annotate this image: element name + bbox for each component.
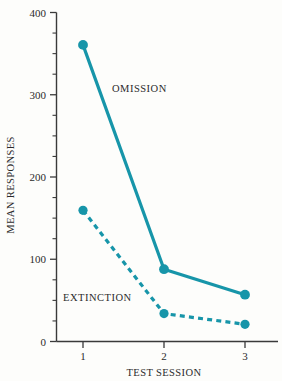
- x-tick-label-3: 3: [242, 350, 248, 362]
- y-axis-major-ticks: [50, 13, 57, 342]
- x-axis-title: TEST SESSION: [127, 367, 202, 378]
- x-tick-label-2: 2: [161, 350, 167, 362]
- y-tick-label-300: 300: [30, 89, 47, 101]
- line-chart: 400 300 200 100 0 1 2 3 TEST SESSION MEA…: [0, 0, 282, 381]
- y-tick-label-400: 400: [30, 7, 47, 19]
- y-axis-title: MEAN RESPONSES: [5, 136, 16, 234]
- x-axis-ticks: [83, 342, 245, 349]
- series-label-omission: OMISSION: [112, 83, 167, 94]
- series-label-extinction: EXTINCTION: [63, 292, 132, 303]
- y-tick-label-200: 200: [30, 171, 47, 183]
- x-tick-label-1: 1: [80, 350, 86, 362]
- y-tick-label-100: 100: [30, 253, 47, 265]
- series-markers-omission: [78, 40, 250, 300]
- y-tick-label-0: 0: [41, 336, 47, 348]
- chart-figure: 400 300 200 100 0 1 2 3 TEST SESSION MEA…: [0, 0, 282, 381]
